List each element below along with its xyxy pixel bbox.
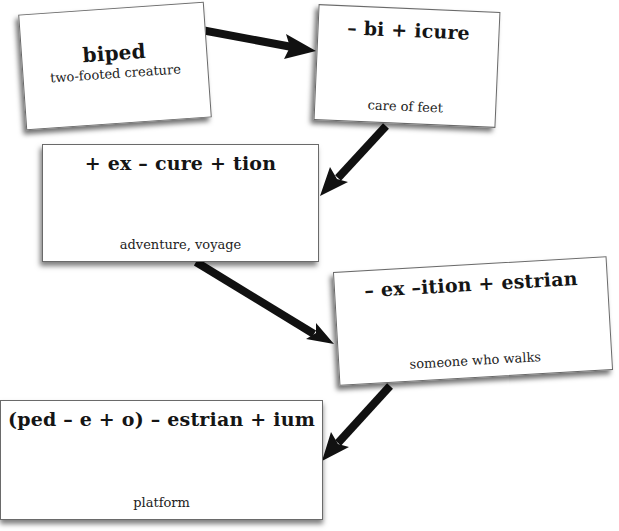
arrow-down-left-icon	[322, 386, 390, 461]
arrow-down-right-icon	[196, 262, 334, 344]
card-definition: care of feet	[315, 95, 496, 119]
card-title: + ex – cure + tion	[43, 152, 318, 174]
card-podium: (ped – e + o) – estrian + ium platform	[0, 400, 323, 520]
card-definition: someone who walks	[339, 345, 611, 377]
card-title: (ped – e + o) – estrian + ium	[1, 408, 322, 430]
card-expedition: + ex – cure + tion adventure, voyage	[42, 144, 319, 262]
card-title: – bi + icure	[318, 15, 499, 45]
card-title: – ex –ition + estrian	[334, 265, 607, 303]
card-definition: adventure, voyage	[43, 237, 318, 253]
card-pedicure: – bi + icure care of feet	[314, 4, 501, 128]
card-pedestrian: – ex –ition + estrian someone who walks	[333, 256, 613, 386]
card-biped: biped two-footed creature	[18, 2, 212, 131]
card-definition: platform	[1, 495, 322, 511]
arrow-right-icon	[196, 29, 316, 59]
arrow-down-left-icon	[320, 126, 386, 196]
